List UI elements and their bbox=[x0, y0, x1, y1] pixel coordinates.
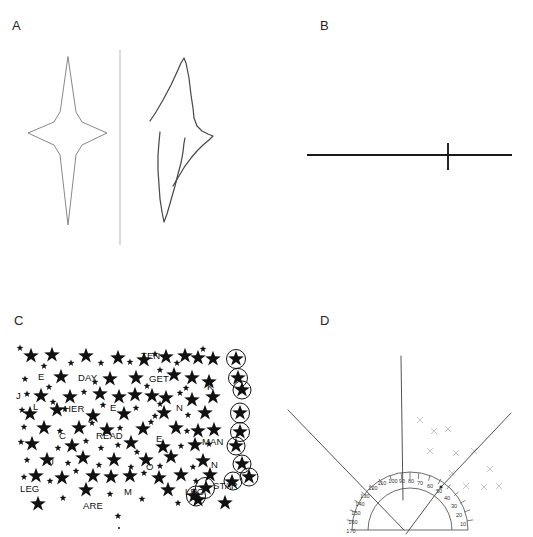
cancellation-word: READ bbox=[96, 431, 123, 441]
faint-marks-group bbox=[417, 417, 502, 490]
model-star-shape bbox=[28, 57, 107, 225]
lower-ray bbox=[406, 487, 441, 534]
cancellation-word: TEN bbox=[141, 351, 160, 361]
protractor-number: 30 bbox=[451, 503, 457, 509]
protractor-number: 150 bbox=[351, 510, 360, 516]
cancellation-word: O bbox=[146, 462, 154, 472]
panel-b-drawing bbox=[266, 0, 533, 300]
upper-left-ray bbox=[288, 410, 404, 530]
copy-star-upper-stroke bbox=[150, 58, 213, 186]
protractor-number: 40 bbox=[444, 495, 450, 501]
protractor-number: 160 bbox=[348, 519, 357, 525]
cancellation-word: GET bbox=[149, 374, 169, 384]
cancellation-word: J bbox=[16, 391, 21, 401]
cancellation-word: N bbox=[176, 403, 183, 413]
cancellation-word: M bbox=[124, 487, 132, 497]
cancellation-word: MAN bbox=[202, 437, 223, 447]
protractor-number: 70 bbox=[417, 480, 423, 486]
protractor-number: 60 bbox=[427, 483, 433, 489]
panel-c-star-field bbox=[0, 300, 266, 537]
response-rays-group bbox=[288, 356, 511, 534]
neglect-assessment-figure: A B C bbox=[0, 0, 533, 537]
panel-d-subjective-straight-ahead: D bbox=[266, 300, 533, 537]
cancellation-word: HER bbox=[64, 404, 84, 414]
panel-d-drawing: 10 20 30 40 50 60 70 80 90 100 110 120 1… bbox=[266, 300, 533, 537]
protractor-number: 10 bbox=[460, 521, 466, 527]
cancellation-word: L bbox=[33, 402, 38, 412]
convergence-vertex bbox=[439, 485, 442, 488]
panel-c-star-cancellation: C bbox=[0, 300, 266, 537]
protractor-number: 140 bbox=[355, 501, 364, 507]
cancellation-word: E bbox=[110, 403, 116, 413]
panel-a-drawing bbox=[0, 0, 266, 300]
panel-a-figure-copying: A bbox=[0, 0, 266, 300]
protractor-number: 130 bbox=[360, 493, 369, 499]
cancellation-word: LEG bbox=[185, 487, 204, 497]
stray-dot bbox=[118, 527, 120, 529]
protractor-number: 170 bbox=[346, 528, 355, 534]
cancellation-word: DAY bbox=[78, 373, 97, 383]
protractor-number: 90 bbox=[399, 478, 405, 484]
cancellation-word: K bbox=[207, 382, 213, 392]
copy-star-lower-stroke bbox=[158, 132, 185, 222]
cancellation-word: ARE bbox=[83, 501, 103, 511]
cancellation-word: U bbox=[47, 457, 54, 467]
upper-right-ray bbox=[441, 413, 511, 487]
cancellation-word: C bbox=[59, 431, 66, 441]
cancellation-word: LEG bbox=[20, 484, 39, 494]
cancellation-word: N bbox=[211, 460, 218, 470]
cancellation-word: E bbox=[38, 372, 44, 382]
protractor-number: 110 bbox=[378, 480, 387, 486]
protractor-number: 20 bbox=[456, 512, 462, 518]
protractor-number: 80 bbox=[408, 478, 414, 484]
panel-b-line-bisection: B bbox=[266, 0, 533, 300]
cancellation-word: E bbox=[156, 434, 162, 444]
protractor-number: 100 bbox=[388, 478, 397, 484]
cancellation-word: STAR bbox=[213, 481, 238, 491]
protractor-number: 120 bbox=[368, 485, 377, 491]
